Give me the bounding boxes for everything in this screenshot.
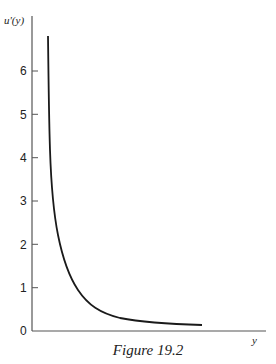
svg-text:6: 6 bbox=[20, 64, 27, 78]
y-ticks bbox=[32, 71, 38, 288]
svg-text:0: 0 bbox=[20, 324, 27, 338]
svg-text:5: 5 bbox=[20, 108, 27, 122]
y-axis-label: u'(y) bbox=[4, 14, 24, 27]
svg-text:1: 1 bbox=[20, 281, 27, 295]
svg-text:2: 2 bbox=[20, 238, 27, 252]
figure-caption: Figure 19.2 bbox=[0, 342, 276, 359]
chart: 0 1 2 3 4 5 6 u'(y) y bbox=[0, 0, 276, 364]
y-tick-labels: 0 1 2 3 4 5 6 bbox=[20, 64, 27, 338]
svg-text:4: 4 bbox=[20, 151, 27, 165]
marginal-utility-curve bbox=[48, 36, 202, 325]
svg-text:3: 3 bbox=[20, 194, 27, 208]
